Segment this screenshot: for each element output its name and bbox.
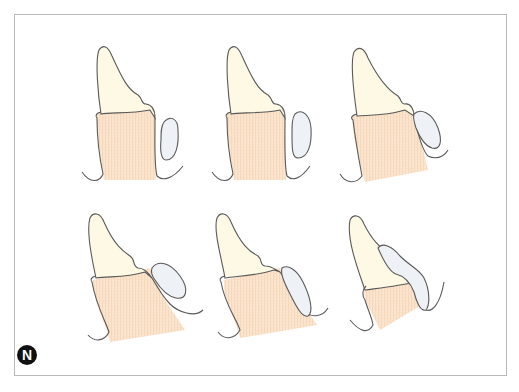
panel-2 [212, 47, 311, 181]
panel-6 [349, 216, 444, 331]
panel-1 [82, 47, 183, 181]
panel-3 [340, 48, 448, 182]
panel-4 [88, 214, 203, 342]
figure-label-badge: N [17, 345, 37, 365]
panel-5 [216, 214, 328, 338]
tooth-lip-diagram [0, 0, 519, 392]
